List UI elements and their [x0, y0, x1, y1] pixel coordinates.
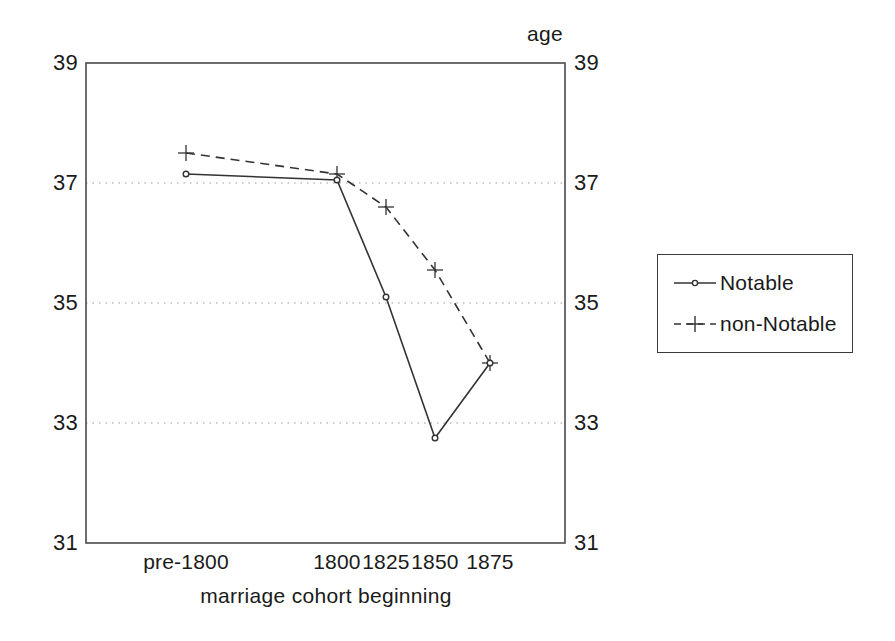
- y-tick-right-37: 37: [574, 172, 630, 194]
- y-tick-right-31: 31: [574, 532, 630, 554]
- dashed-line-plus-marker-icon: [672, 313, 718, 335]
- legend-sample-notable: [672, 272, 718, 294]
- y-tick-right-35: 35: [574, 292, 630, 314]
- y-tick-left-39: 39: [22, 52, 78, 74]
- x-tick-1875: 1875: [466, 551, 514, 572]
- x-axis-title: marriage cohort beginning: [86, 584, 566, 608]
- y-tick-right-33: 33: [574, 412, 630, 434]
- y-tick-left-33: 33: [22, 412, 78, 434]
- legend-sample-non-notable: [672, 313, 718, 335]
- legend-label-notable: Notable: [720, 271, 794, 295]
- x-tick-1800: 1800: [313, 551, 361, 572]
- non-notable-line: [186, 153, 490, 363]
- data-point: [427, 262, 443, 278]
- y-tick-left-35: 35: [22, 292, 78, 314]
- data-point: [383, 294, 389, 300]
- legend-label-non-notable: non-Notable: [720, 312, 837, 336]
- x-tick-pre-1800: pre-1800: [143, 551, 229, 572]
- series-notable: [183, 171, 493, 441]
- legend-item-notable: Notable: [672, 268, 794, 298]
- notable-markers: [183, 171, 493, 441]
- data-point: [183, 171, 189, 177]
- notable-line: [186, 174, 490, 438]
- y-tick-left-37: 37: [22, 172, 78, 194]
- legend-item-non-notable: non-Notable: [672, 309, 837, 339]
- data-point: [487, 360, 493, 366]
- gridlines: [86, 183, 565, 423]
- data-point: [378, 199, 394, 215]
- y-tick-left-31: 31: [22, 532, 78, 554]
- y-tick-right-39: 39: [574, 52, 630, 74]
- x-tick-1825: 1825: [362, 551, 410, 572]
- data-point: [432, 435, 438, 441]
- chart-figure: age 39 37 35 33 31 39 37 35 33 31 pre-18…: [0, 0, 895, 641]
- data-point: [334, 177, 340, 183]
- x-tick-1850: 1850: [411, 551, 459, 572]
- solid-line-circle-marker-icon: [672, 272, 718, 294]
- data-point: [178, 145, 194, 161]
- legend: Notable non-Notable: [657, 254, 853, 353]
